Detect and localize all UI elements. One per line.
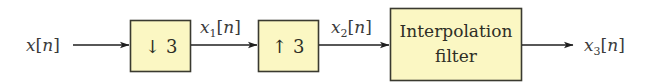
down-arrow-icon: ↓ [145, 36, 160, 57]
signal-x2-label: x2[n] [331, 17, 372, 40]
downsampler-block: ↓3 [131, 21, 191, 72]
output-signal-label: x3[n] [584, 35, 625, 58]
input-signal-label: x[n] [26, 35, 60, 55]
interpolation-filter-box [391, 9, 522, 81]
filter-label-line1: Interpolation [400, 21, 513, 41]
upsampler-block: ↑3 [259, 21, 319, 72]
interpolation-filter-block: Interpolation filter [391, 9, 522, 81]
signal-x1-label: x1[n] [200, 17, 241, 40]
up-arrow-icon: ↑ [272, 36, 287, 57]
upsampler-box [259, 21, 319, 72]
block-diagram: x[n] ↓3 x1[n] ↑3 x2[n] Interpolation fil… [0, 0, 664, 82]
downsampler-box [131, 21, 191, 72]
filter-label-line2: filter [435, 46, 478, 66]
